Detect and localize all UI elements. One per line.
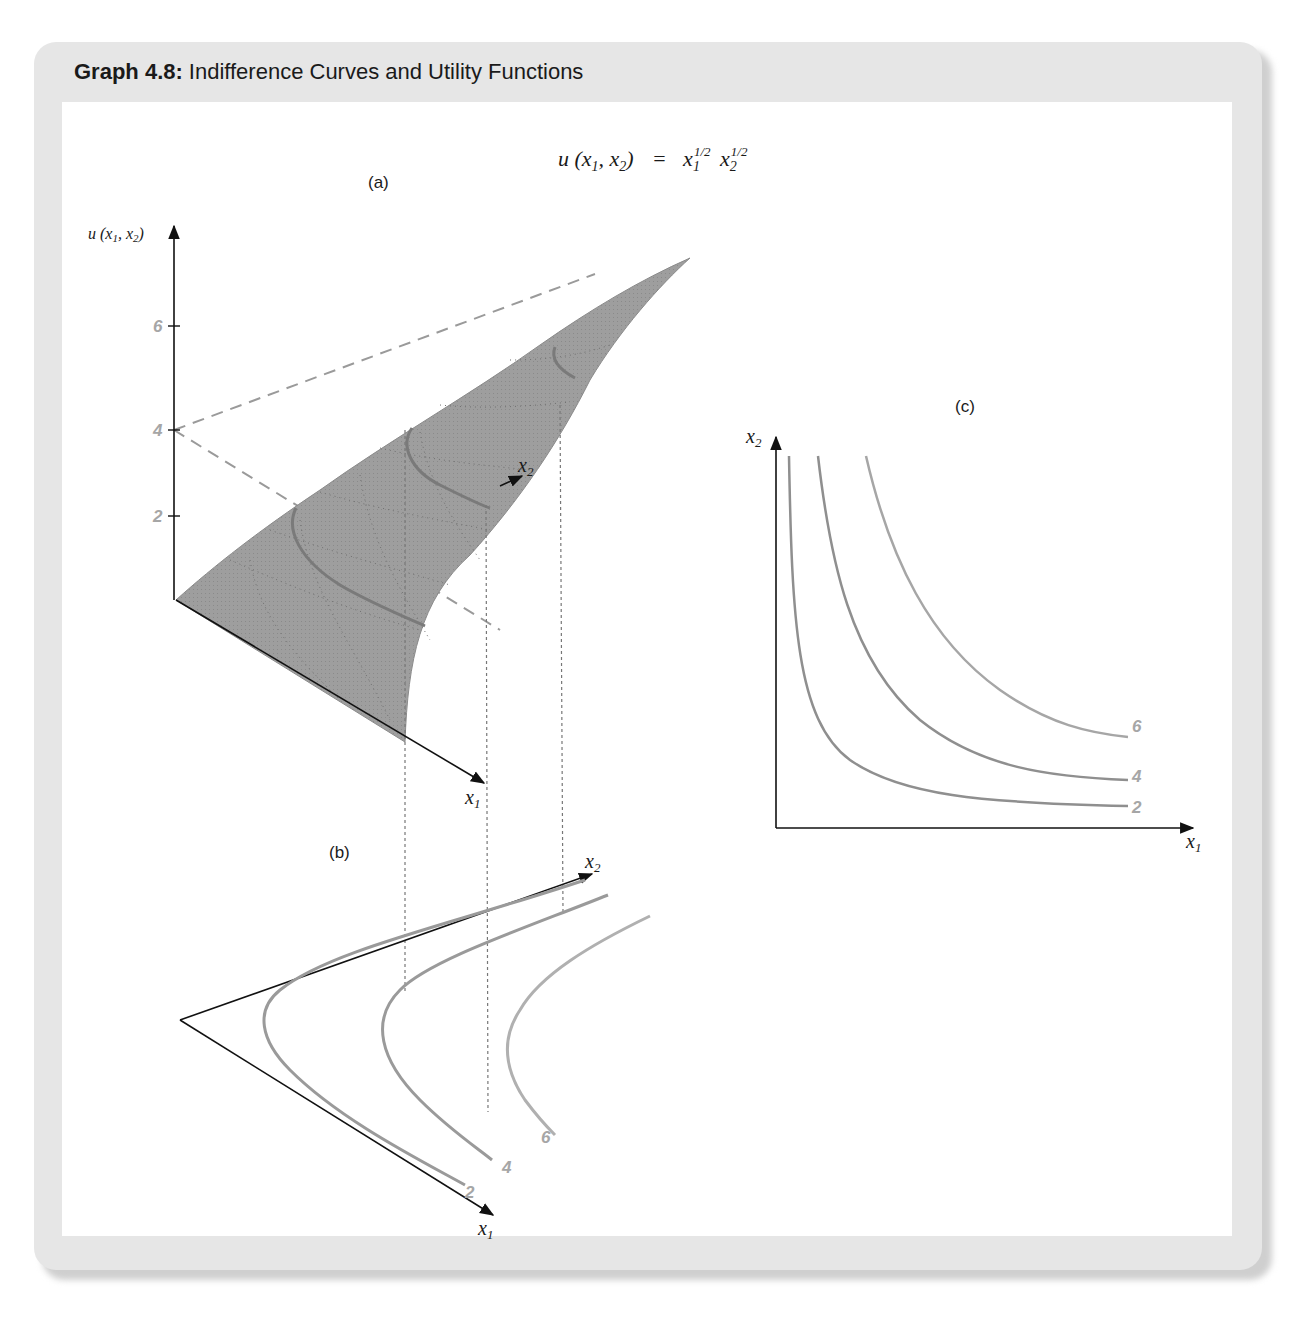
u-axis-label: u (x1, x2) <box>88 225 144 244</box>
x1-label-c: x1 <box>1185 830 1201 855</box>
curve-label-b-4: 4 <box>501 1158 512 1177</box>
utility-surface <box>176 258 690 742</box>
x2-axis-b <box>180 874 592 1020</box>
x1-label-a: x1 <box>464 786 480 811</box>
curve-label-c-4: 4 <box>1131 767 1142 786</box>
tick-6: 6 <box>153 317 163 336</box>
indifference-curve-2 <box>789 456 1128 806</box>
panel-c-label: (c) <box>955 397 975 416</box>
projected-curves <box>264 880 650 1185</box>
indifference-curve-6 <box>866 456 1128 737</box>
x1-axis-b <box>180 1020 493 1215</box>
x1-label-b: x1 <box>477 1217 493 1242</box>
projected-curve-4 <box>383 895 608 1160</box>
panel-a: (a) <box>88 173 690 1112</box>
panel-b-label: (b) <box>329 843 350 862</box>
indifference-curve-4 <box>818 456 1128 780</box>
panel-c: (c) 2 4 6 x2 x1 <box>745 397 1201 855</box>
curve-label-c-6: 6 <box>1132 717 1142 736</box>
utility-formula: u (x1, x2) = x11/2 x21/2 <box>558 136 748 174</box>
x2-label-b: x2 <box>584 850 601 875</box>
projected-curve-2 <box>264 880 585 1185</box>
projected-curve-6 <box>507 916 650 1135</box>
curve-label-b-2: 2 <box>464 1183 475 1202</box>
panel-b: (b) 2 4 6 x2 x1 <box>180 843 650 1242</box>
indifference-curves <box>789 456 1128 806</box>
tick-4: 4 <box>152 421 163 440</box>
curve-label-c-2: 2 <box>1131 798 1142 817</box>
tick-2: 2 <box>152 507 163 526</box>
panel-a-label: (a) <box>368 173 389 192</box>
svg-text:u (x1, x2) = x11/2: u (x1, x2) = x11/2 x21/2 <box>558 136 748 174</box>
curve-label-b-6: 6 <box>541 1128 551 1147</box>
figure-svg: u (x1, x2) = x11/2 x21/2 (a) <box>0 0 1289 1320</box>
x2-label-c: x2 <box>745 425 762 450</box>
